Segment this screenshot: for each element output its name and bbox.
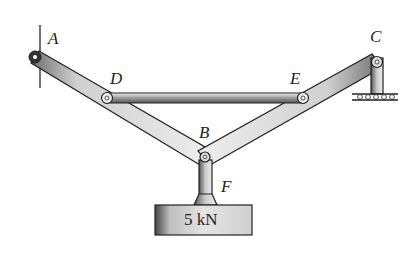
label-d: D xyxy=(110,70,122,87)
label-f: F xyxy=(221,178,231,195)
label-b: B xyxy=(199,124,209,141)
pin-b xyxy=(200,152,210,162)
label-c: C xyxy=(370,28,381,45)
load-label: 5 kN xyxy=(184,211,218,228)
member-de xyxy=(103,93,307,103)
pin-a xyxy=(29,51,41,63)
label-a: A xyxy=(48,30,58,47)
pin-e xyxy=(298,93,309,104)
pin-d xyxy=(102,93,113,104)
post-f xyxy=(194,160,217,205)
label-e: E xyxy=(290,70,300,87)
